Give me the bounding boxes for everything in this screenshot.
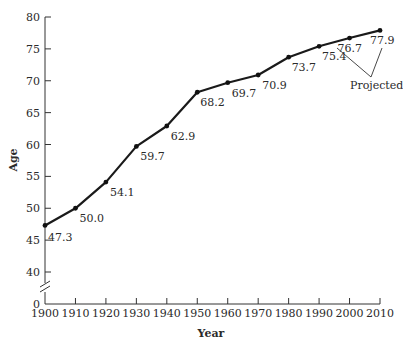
axis-break-mark [40,286,50,292]
projected-label: Projected [350,79,403,92]
projected-pointer-2010 [371,48,382,77]
y-tick-label: 40 [26,266,40,279]
data-label: 69.7 [232,87,257,100]
data-point [134,144,139,149]
x-tick-label: 1990 [305,307,333,320]
y-tick-label: 65 [26,107,40,120]
data-point [286,55,291,60]
data-point [378,28,383,33]
data-point [256,73,261,78]
x-tick-label: 2010 [366,307,394,320]
data-label: 73.7 [292,61,317,74]
data-label: 77.9 [370,34,395,47]
x-tick-label: 1980 [275,307,303,320]
x-tick-label: 2000 [336,307,364,320]
x-tick-label: 1960 [214,307,242,320]
y-tick-label: 60 [26,139,40,152]
x-tick-label: 1910 [61,307,89,320]
x-tick-label: 1920 [92,307,120,320]
data-point [347,36,352,41]
y-tick-label: 75 [26,43,40,56]
data-label: 62.9 [171,130,196,143]
y-axis-title: Age [7,148,20,172]
data-point [225,80,230,85]
data-label: 47.3 [48,231,73,244]
y-tick-label: 50 [26,202,40,215]
data-label: 54.1 [110,186,135,199]
data-point [43,223,48,228]
x-tick-label: 1950 [183,307,211,320]
life-expectancy-chart: 0404550556065707580 19001910192019301940… [0,0,403,349]
y-tick-label: 80 [26,11,40,24]
data-point [317,44,322,49]
x-tick-label: 1940 [153,307,181,320]
y-tick-label: 45 [26,234,40,247]
data-labels: 47.350.054.159.762.968.269.770.973.775.4… [48,34,395,244]
data-label: 59.7 [140,150,165,163]
data-label: 70.9 [262,79,287,92]
x-axis-ticks: 1900191019201930194019501960197019801990… [31,298,394,320]
y-axis-ticks: 0404550556065707580 [26,11,51,311]
data-label: 76.7 [338,42,363,55]
data-point [73,206,78,211]
x-axis-title: Year [197,327,225,340]
data-label: 68.2 [200,96,225,109]
data-point [195,90,200,95]
data-point [164,124,169,129]
data-point [104,180,109,185]
y-tick-label: 55 [26,170,40,183]
x-tick-label: 1900 [31,307,59,320]
x-tick-label: 1930 [122,307,150,320]
data-label: 50.0 [79,212,104,225]
y-tick-label: 70 [26,75,40,88]
x-tick-label: 1970 [244,307,272,320]
